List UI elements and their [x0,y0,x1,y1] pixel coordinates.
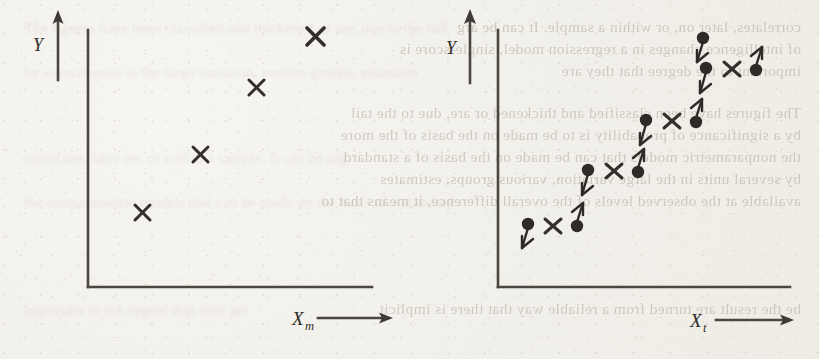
right-panel-svg: Y X t [400,0,819,359]
data-marker-x [664,114,680,128]
x-axis-label: X [291,308,305,329]
dot-with-down-arrow-marker [640,114,652,145]
dot-with-down-arrow-marker [582,164,594,195]
dot-with-down-arrow-marker [700,62,712,93]
data-marker-x [249,80,264,95]
y-axis-label: Y [33,35,45,55]
marker-group-attenuated-pair [640,99,702,145]
marker-group-attenuated-pair [700,47,762,93]
marker-group-attenuated-pair [697,32,709,62]
x-axis-label-subscript: t [703,321,707,335]
dot-with-down-arrow-marker [697,32,709,62]
dot-with-up-arrow-marker [571,203,583,232]
scatter-plot-true-x: Y X t [400,0,819,359]
marker-group-attenuated-pair [522,203,583,248]
x-axis-label-subscript: m [305,319,314,333]
data-marker-x [724,62,740,76]
dot-with-up-arrow-marker [690,99,702,128]
data-marker-x [135,205,150,220]
left-panel-svg: Y X m [0,0,410,359]
data-marker-x [545,219,561,233]
data-marker-x [193,147,208,162]
data-marker-x [606,164,622,178]
dot-with-up-arrow-marker [632,149,644,178]
dot-with-down-arrow-marker [522,218,534,248]
marker-group-attenuated-pair [582,149,644,195]
data-marker-x [307,28,324,45]
scanned-page: correlates, later on, or within a sample… [0,0,819,359]
scatter-plot-measured-x: Y X m [0,0,410,359]
dot-with-up-arrow-marker [750,47,762,76]
x-axis-label: X [689,310,703,331]
y-axis-label: Y [446,38,458,58]
